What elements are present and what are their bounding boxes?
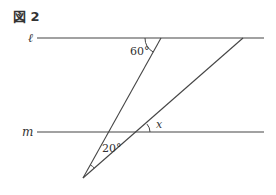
label-m: m — [22, 125, 33, 139]
label-l: ℓ — [28, 31, 33, 45]
transversal-right — [83, 38, 243, 178]
geometry-diagram: ℓ m 60° 20° x — [0, 0, 276, 195]
angle-arc-x — [147, 124, 150, 132]
angle-label-x: x — [156, 118, 163, 131]
transversal-left — [83, 38, 161, 178]
angle-label-60: 60° — [130, 45, 150, 58]
angle-label-20: 20° — [102, 142, 122, 155]
angle-arc-20 — [90, 165, 94, 168]
